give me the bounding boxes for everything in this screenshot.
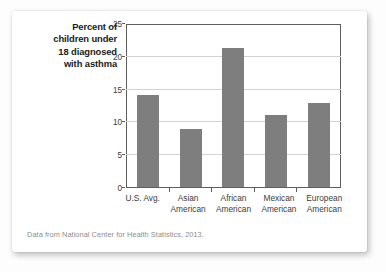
bar-slot <box>127 25 170 187</box>
x-axis-label-line-1: European <box>306 193 342 203</box>
y-tick-mark-20 <box>122 56 125 57</box>
bar-slot <box>170 25 213 187</box>
y-tick-label-15: 15 <box>98 85 122 94</box>
x-axis-label: EuropeanAmerican <box>302 191 347 223</box>
y-tick-label-5: 5 <box>98 151 122 160</box>
bar <box>137 95 159 187</box>
bar-slot <box>297 25 340 187</box>
x-axis-label-line-2: American <box>302 204 347 215</box>
bar-slot <box>255 25 298 187</box>
bar <box>265 115 287 187</box>
x-axis-label-line-2: American <box>256 204 301 215</box>
y-axis-tick-labels: 0510152025 <box>96 24 122 188</box>
x-axis-labels: U.S. Avg.AsianAmericanAfricanAmericanMex… <box>120 191 347 223</box>
x-axis-label-line-1: Mexican <box>263 193 294 203</box>
bars-layer <box>127 25 340 187</box>
source-note: Data from National Center for Health Sta… <box>27 230 204 239</box>
y-tick-label-10: 10 <box>98 118 122 127</box>
x-axis-label: MexicanAmerican <box>256 191 301 223</box>
x-axis-label-line-1: African <box>221 193 247 203</box>
y-tick-mark-15 <box>122 89 125 90</box>
plot-area <box>126 24 341 188</box>
y-tick-mark-25 <box>122 23 125 24</box>
bar <box>308 103 330 187</box>
bar <box>180 129 202 187</box>
y-tick-label-20: 20 <box>98 52 122 61</box>
figure-root: Percent of children under 18 diagnosed w… <box>0 0 386 272</box>
x-axis-label: AfricanAmerican <box>211 191 256 223</box>
x-axis-label-line-1: Asian <box>178 193 199 203</box>
x-axis-label: U.S. Avg. <box>120 191 165 223</box>
x-axis-label-line-2: American <box>165 204 210 215</box>
y-tick-label-0: 0 <box>98 184 122 193</box>
y-tick-mark-5 <box>122 154 125 155</box>
y-tick-mark-0 <box>122 187 125 188</box>
x-axis-label: AsianAmerican <box>165 191 210 223</box>
x-axis-label-line-2: American <box>211 204 256 215</box>
bar-slot <box>212 25 255 187</box>
x-axis-label-line-1: U.S. Avg. <box>125 193 159 203</box>
bar <box>222 48 244 187</box>
y-tick-mark-10 <box>122 121 125 122</box>
y-tick-label-25: 25 <box>98 20 122 29</box>
